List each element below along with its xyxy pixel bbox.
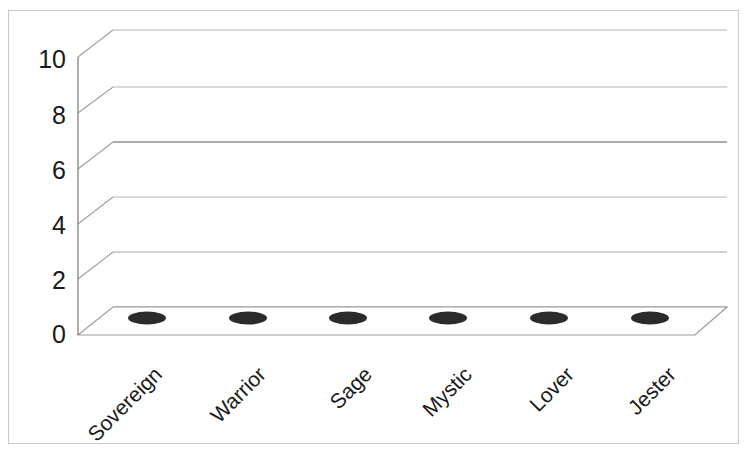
depth-connector-2 xyxy=(78,252,113,279)
depth-connector-group xyxy=(78,30,113,279)
data-marker-sage[interactable] xyxy=(329,312,367,325)
data-marker-sovereign[interactable] xyxy=(128,312,166,325)
depth-connector-10 xyxy=(78,30,113,57)
data-marker-warrior[interactable] xyxy=(229,312,267,325)
y-tick-label-4: 4 xyxy=(8,213,66,238)
y-tick-label-0: 0 xyxy=(8,322,66,347)
data-marker-mystic[interactable] xyxy=(429,312,467,325)
depth-connector-4 xyxy=(78,197,113,224)
y-tick-label-2: 2 xyxy=(8,268,66,293)
depth-connector-6 xyxy=(78,142,113,169)
data-marker-jester[interactable] xyxy=(631,312,669,325)
back-wall-plane xyxy=(113,30,727,307)
floor-plane xyxy=(78,307,727,335)
data-marker-lover[interactable] xyxy=(530,312,568,325)
chart-root: 10 8 6 4 2 0 Sovereign Warrior Sage Myst… xyxy=(0,0,748,464)
depth-connector-8 xyxy=(78,87,113,113)
y-tick-label-10: 10 xyxy=(8,47,66,72)
y-tick-label-8: 8 xyxy=(8,103,66,128)
y-tick-label-6: 6 xyxy=(8,158,66,183)
